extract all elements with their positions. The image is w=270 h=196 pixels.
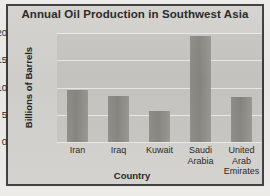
y-tick-label: 15	[0, 54, 7, 65]
bar	[231, 97, 252, 142]
x-axis-label: Country	[57, 170, 207, 181]
gridline	[57, 60, 262, 61]
bar	[67, 90, 88, 142]
y-tick-label: 20	[0, 27, 7, 38]
gridline	[57, 33, 262, 34]
y-tick-label: 0	[0, 136, 7, 147]
chart-title: Annual Oil Production in Southwest Asia	[8, 8, 262, 20]
bar	[149, 111, 170, 142]
bar	[108, 96, 129, 142]
x-tick-label: UnitedArabEmirates	[216, 145, 268, 177]
plot-area	[57, 33, 262, 142]
y-axis-label: Billions of Barrels	[23, 33, 34, 143]
y-tick-label: 10	[0, 82, 7, 93]
bar	[190, 36, 211, 142]
gridline	[57, 142, 262, 143]
gridline	[57, 88, 262, 89]
y-tick-label: 5	[0, 109, 7, 120]
chart-figure: Annual Oil Production in Southwest Asia …	[0, 0, 270, 196]
